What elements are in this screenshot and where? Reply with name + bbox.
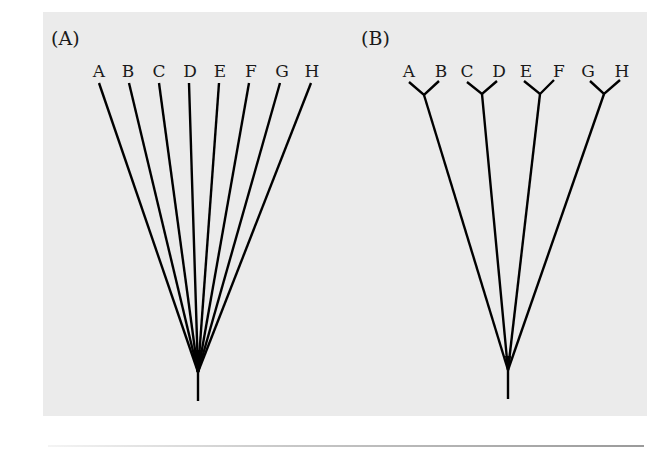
panel-b-label: (B) <box>361 27 390 49</box>
panel-b-taxon-d: D <box>492 61 506 81</box>
phylogeny-figure: (A) A B C D E F G H (B) A B C D <box>0 0 665 449</box>
panel-a-taxon-d: D <box>183 61 197 81</box>
panel-a-label: (A) <box>51 27 80 49</box>
panel-b-taxon-f: F <box>553 61 565 81</box>
panel-a-branch-c <box>159 83 198 372</box>
panel-a-taxon-g: G <box>275 61 289 81</box>
panel-b-taxon-e: E <box>520 61 532 81</box>
panel-b-fork-cd <box>467 81 497 94</box>
panel-b-taxon-a: A <box>402 61 416 81</box>
tree-diagrams: (A) A B C D E F G H (B) A B C D <box>0 0 665 449</box>
panel-a: (A) A B C D E F G H <box>51 27 319 401</box>
panel-a-taxon-c: C <box>152 61 165 81</box>
panel-b-taxon-h: H <box>615 61 630 81</box>
panel-a-taxon-h: H <box>305 61 320 81</box>
panel-a-branch-g <box>198 83 280 372</box>
panel-a-branch-f <box>198 83 249 372</box>
panel-a-branch-d <box>189 83 198 372</box>
panel-b: (B) A B C D E F G H <box>361 27 629 399</box>
panel-b-taxon-g: G <box>581 61 595 81</box>
panel-a-taxon-b: B <box>122 61 135 81</box>
panel-b-taxon-c: C <box>460 61 473 81</box>
panel-b-fork-ab <box>409 81 439 95</box>
panel-a-branch-b <box>129 83 198 372</box>
panel-b-branch-gh <box>508 94 604 370</box>
panel-b-taxon-b: B <box>435 61 448 81</box>
panel-a-taxon-a: A <box>92 61 106 81</box>
panel-b-branch-ef <box>508 94 540 370</box>
panel-a-branch-a <box>99 83 198 372</box>
panel-a-taxon-f: F <box>245 61 257 81</box>
bottom-rule <box>48 445 644 447</box>
panel-b-fork-ef <box>524 80 554 94</box>
panel-a-taxon-e: E <box>214 61 226 81</box>
panel-b-fork-gh <box>590 80 620 94</box>
